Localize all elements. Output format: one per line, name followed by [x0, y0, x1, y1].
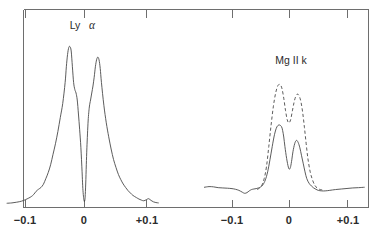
tick-label-left-minus01: −0.1 — [14, 214, 37, 226]
trace-solid-mg-ii-k — [204, 125, 364, 193]
tick-label-right-plus01: +0.1 — [337, 214, 360, 226]
left-panel-bottom-ticks — [26, 200, 147, 208]
lyman-alpha-label: Ly — [70, 19, 81, 31]
axis-frame — [24, 10, 369, 208]
tick-label-right-zero: 0 — [286, 214, 292, 226]
lyman-alpha-trace-group — [7, 46, 158, 203]
tick-label-left-plus01: +0.1 — [136, 214, 159, 226]
plot-canvas: Ly α Mg II k −0.1 0 +0.1 −0.1 0 +0.1 — [0, 0, 389, 237]
right-panel-bottom-ticks — [233, 200, 348, 208]
right-panel-top-ticks — [233, 10, 348, 18]
mg-ii-k-label: Mg II k — [275, 54, 307, 66]
spectral-line-profile-figure: Ly α Mg II k −0.1 0 +0.1 −0.1 0 +0.1 — [0, 0, 389, 237]
tick-label-right-minus01: −0.1 — [221, 214, 244, 226]
tick-label-left-zero: 0 — [81, 214, 87, 226]
trace-solid-ly — [7, 46, 158, 203]
mg-ii-k-trace-group — [204, 84, 364, 193]
left-panel-top-ticks — [26, 10, 147, 18]
lyman-alpha-greek-label: α — [89, 19, 96, 31]
